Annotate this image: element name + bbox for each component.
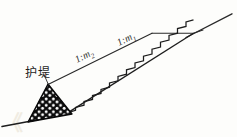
levee-riprap-triangle bbox=[28, 84, 72, 122]
leader-line-group bbox=[44, 75, 49, 86]
figure-canvas: 《 bbox=[0, 0, 237, 137]
upper-slope-group bbox=[48, 14, 232, 85]
bench-slope-baseline bbox=[68, 33, 194, 112]
slope-cross-section-drawing bbox=[0, 0, 237, 137]
benched-excavation-group bbox=[68, 20, 194, 113]
upper-slope-line bbox=[48, 33, 152, 84]
levee-group bbox=[28, 84, 72, 122]
levee-leader-line bbox=[44, 75, 49, 86]
bench-steps-path bbox=[68, 20, 194, 113]
